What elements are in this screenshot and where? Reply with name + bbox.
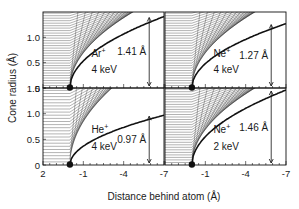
cone-radius-label: 1.27 Å [239, 49, 268, 61]
y-tick-label: 0.5 [27, 57, 40, 68]
x-tick-label: -7 [160, 168, 168, 179]
atom-marker [189, 161, 195, 167]
trajectory-line [43, 0, 164, 13]
x-tick-label: 2 [40, 168, 45, 179]
ion-label: He+ [91, 123, 108, 135]
atom-marker [67, 161, 73, 167]
panel-ar: 1.41 ÅAr+4 keV00.51.0 [27, 0, 164, 94]
energy-label: 4 keV [213, 64, 239, 75]
trajectory-line [43, 0, 164, 8]
y-tick-label: 1.0 [27, 108, 40, 119]
x-tick-label: -1 [201, 168, 209, 179]
x-tick-label: -1 [79, 168, 87, 179]
energy-label: 4 keV [91, 141, 117, 152]
trajectory-line [43, 0, 164, 11]
trajectory-line [43, 0, 164, 21]
x-tick-label: -7 [282, 168, 290, 179]
trajectory-line [165, 0, 286, 18]
shadow-cone-figure: 1.41 ÅAr+4 keV00.51.01.27 ÅNe+4 keV0.97 … [0, 0, 299, 209]
panel-ne4: 1.27 ÅNe+4 keV [165, 0, 286, 91]
energy-label: 2 keV [213, 141, 239, 152]
y-axis-label: Cone radius (Å) [6, 53, 18, 123]
trajectory-line [165, 0, 286, 11]
trajectory-line [165, 0, 286, 21]
ion-charge: + [226, 123, 230, 130]
y-tick-label: 1.5 [27, 83, 40, 94]
x-tick-label: -4 [119, 168, 127, 179]
energy-label: 4 keV [91, 64, 117, 75]
cone-radius-label: 1.41 Å [117, 45, 146, 57]
trajectory-line [165, 0, 286, 8]
atom-marker [67, 84, 73, 90]
y-tick-label: 0 [35, 160, 40, 171]
trajectory-line [165, 0, 286, 13]
x-axis-label: Distance behind atom (Å) [108, 190, 221, 202]
x-tick-label: -4 [241, 168, 249, 179]
trajectory-line [43, 0, 164, 18]
cone-radius-label: 0.97 Å [117, 133, 146, 145]
ion-charge: + [104, 123, 108, 130]
y-tick-label: 1.0 [27, 32, 40, 43]
ion-charge: + [101, 47, 105, 54]
atom-marker [189, 84, 195, 90]
y-tick-label: 0.5 [27, 134, 40, 145]
cone-radius-label: 1.46 Å [239, 121, 268, 133]
ion-charge: + [226, 47, 230, 54]
